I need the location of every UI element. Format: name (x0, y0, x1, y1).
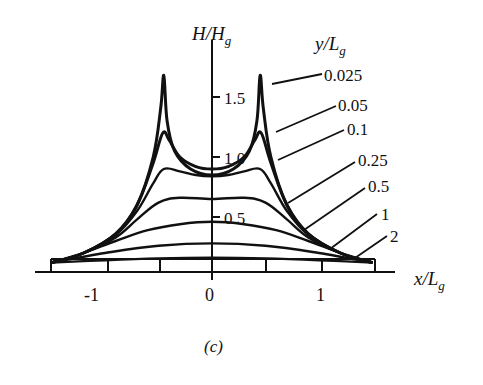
legend-label-0.5: 0.5 (368, 177, 389, 196)
legend: 0.025 0.05 0.1 0.25 0.5 1 2 (272, 66, 399, 258)
legend-title: y/Lg (313, 33, 346, 58)
figure-caption: (c) (204, 337, 223, 356)
x-tick-label: 1 (316, 285, 325, 305)
legend-label-2: 2 (390, 227, 399, 246)
y-tick-label: 1.5 (224, 89, 245, 108)
legend-label-0.025: 0.025 (324, 66, 362, 85)
legend-label-0.05: 0.05 (338, 96, 368, 115)
x-tick-label: 0 (205, 285, 214, 305)
legend-label-0.25: 0.25 (358, 151, 388, 170)
y-tick-label: 0.5 (224, 209, 245, 228)
y-tick-label: 1.0 (224, 149, 245, 168)
legend-label-1: 1 (381, 205, 390, 224)
x-tick-label: -1 (84, 285, 99, 305)
legend-label-0.1: 0.1 (347, 120, 368, 139)
x-axis-title: x/Lg (413, 268, 445, 293)
chart: 1.5 1.0 0.5 -1 0 1 H/Hg x/Lg y/Lg 0.025 … (0, 0, 483, 385)
